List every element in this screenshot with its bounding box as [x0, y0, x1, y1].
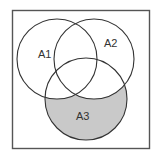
- set-a1-label: A1: [38, 48, 51, 60]
- set-a3-label: A3: [76, 110, 89, 122]
- venn-diagram: A1 A2 A3: [0, 0, 160, 154]
- set-a2-label: A2: [104, 37, 117, 49]
